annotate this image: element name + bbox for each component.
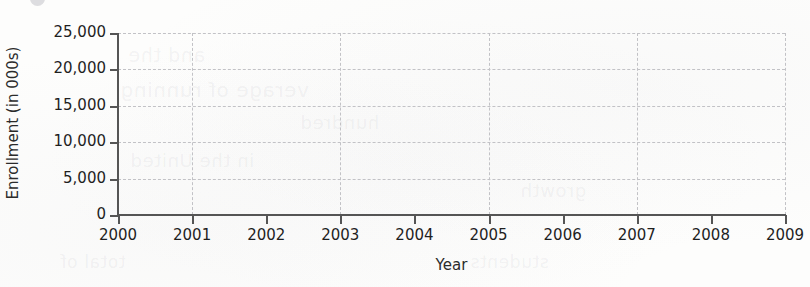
- y-axis-tick: [110, 179, 119, 181]
- plot-area: [118, 33, 785, 215]
- x-axis-tick-label: 2001: [173, 226, 211, 244]
- gridline-vertical: [192, 33, 193, 215]
- x-axis-tick: [266, 215, 268, 224]
- gridline-vertical: [637, 33, 638, 215]
- x-axis-tick: [192, 215, 194, 224]
- y-axis-tick-labels: 05,00010,00015,00020,00025,000: [0, 0, 106, 287]
- x-axis-tick-label: 2009: [766, 226, 804, 244]
- x-axis-title: Year: [118, 256, 785, 274]
- gridline-horizontal: [118, 179, 785, 180]
- y-axis-tick: [110, 33, 119, 35]
- y-axis-tick-label-text: 0: [96, 205, 106, 223]
- y-axis-tick-label-text: 25,000: [54, 23, 107, 41]
- y-axis-tick: [110, 106, 119, 108]
- x-axis-tick-label: 2005: [469, 226, 507, 244]
- x-axis-tick-label: 2000: [99, 226, 137, 244]
- y-axis-tick-label-text: 5,000: [63, 169, 106, 187]
- gridline-vertical: [340, 33, 341, 215]
- gridline-horizontal: [118, 69, 785, 70]
- chart-figure: and the verage of running hundred in the…: [0, 0, 810, 287]
- gridline-vertical: [489, 33, 490, 215]
- gridline-horizontal: [118, 33, 785, 34]
- y-axis-line: [117, 33, 119, 216]
- y-axis-tick: [110, 142, 119, 144]
- gridline-horizontal: [118, 142, 785, 143]
- x-axis-tick: [118, 215, 120, 224]
- x-axis-line: [117, 214, 786, 216]
- x-axis-tick: [414, 215, 416, 224]
- gridline-vertical: [785, 33, 786, 215]
- x-axis-tick-label: 2007: [618, 226, 656, 244]
- x-axis-tick: [563, 215, 565, 224]
- y-axis-tick-label-text: 15,000: [54, 96, 107, 114]
- y-axis-tick-label-text: 10,000: [54, 132, 107, 150]
- x-axis-tick-label: 2008: [692, 226, 730, 244]
- y-axis-tick: [110, 69, 119, 71]
- x-axis-tick: [785, 215, 787, 224]
- x-axis-tick-label: 2004: [395, 226, 433, 244]
- x-axis-tick: [711, 215, 713, 224]
- x-axis-tick: [340, 215, 342, 224]
- y-axis-tick-label-text: 20,000: [54, 59, 107, 77]
- x-axis-tick-label: 2006: [544, 226, 582, 244]
- gridline-horizontal: [118, 106, 785, 107]
- x-axis-tick: [637, 215, 639, 224]
- x-axis-tick-label: 2003: [321, 226, 359, 244]
- x-axis-tick: [489, 215, 491, 224]
- x-axis-tick-label: 2002: [247, 226, 285, 244]
